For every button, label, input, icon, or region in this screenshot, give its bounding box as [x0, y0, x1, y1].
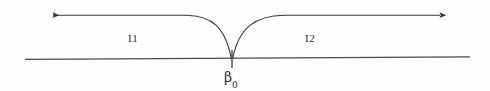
region-label-i1: I1 — [128, 33, 138, 44]
region-label-i2: I2 — [305, 33, 315, 44]
beta-subscript-zero: 0 — [232, 80, 238, 90]
branch-point-label-beta0: β0 — [224, 70, 238, 88]
contour-diagram-svg — [0, 0, 490, 91]
figure-root: I1 I2 β0 — [0, 0, 490, 91]
figure-background — [0, 0, 490, 91]
beta-symbol: β — [224, 69, 232, 85]
